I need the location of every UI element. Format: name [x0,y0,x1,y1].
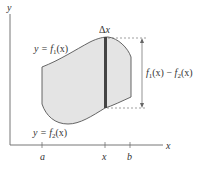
area-between-curves-diagram: y x a x b y = f1(x) y = f2(x) Δx f1(x) −… [0,0,199,169]
delta-x-strip [104,37,107,108]
y-axis-label: y [6,2,12,13]
x-axis-label: x [165,140,171,151]
tick-label-x: x [101,151,107,162]
arrow-head-down-icon [140,103,144,108]
lower-curve-label: y = f2(x) [32,127,67,140]
delta-x-label: Δx [99,24,110,35]
arrow-head-up-icon [140,38,144,43]
tick-label-a: a [40,151,45,162]
height-label: f1(x) − f2(x) [146,67,193,80]
upper-curve-label: y = f1(x) [33,43,68,56]
tick-label-b: b [127,151,132,162]
